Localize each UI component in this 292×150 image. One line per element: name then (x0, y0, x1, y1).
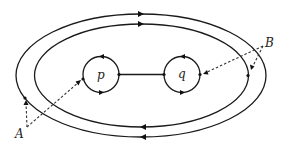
loop-p-bottom-arrow-icon (99, 90, 104, 95)
dot-outer-left (23, 96, 26, 99)
outer-loop (16, 14, 266, 137)
loop-q-top-arrow-icon (180, 54, 185, 59)
callout-b-arrow-q-icon (203, 70, 209, 75)
loop-q-bottom-arrow-icon (180, 90, 185, 95)
label-a: A (14, 127, 24, 141)
dot-p-left (81, 77, 84, 80)
callout-a-pointer-outer (26, 102, 27, 127)
inner-bottom-arrow-icon (140, 124, 146, 130)
label-q: q (178, 67, 186, 81)
dot-p-right (117, 73, 120, 76)
callout-b-arrow-inner-icon (250, 65, 255, 71)
outer-bottom-arrow-icon (140, 134, 146, 140)
loop-diagram: p q A B (0, 0, 292, 150)
dot-inner-right (246, 74, 249, 77)
label-b: B (264, 36, 274, 50)
label-p: p (97, 68, 105, 82)
loop-p-top-arrow-icon (99, 54, 104, 59)
inner-loop (35, 24, 249, 127)
inner-top-arrow-icon (138, 21, 144, 27)
outer-top-arrow-icon (138, 11, 144, 17)
dot-q-right (198, 73, 201, 76)
dot-q-left (162, 73, 165, 76)
